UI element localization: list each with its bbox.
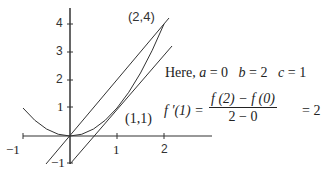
y-tick-label-4: 4	[56, 17, 63, 29]
x-tick-label-2: 2	[161, 143, 168, 155]
a-value: = 0	[206, 65, 228, 80]
b-variable: b	[239, 65, 246, 80]
quotient-numerator: f (2) − f (0)	[209, 92, 277, 108]
tangent-line	[70, 46, 172, 164]
secant-line	[46, 18, 169, 164]
x-tick-label-neg1: −1	[6, 143, 20, 156]
c-value: = 1	[284, 65, 306, 80]
point-label-2-4: (2,4)	[128, 10, 155, 23]
y-tick-label-1: 1	[57, 100, 64, 113]
b-value: = 2	[246, 65, 268, 80]
y-tick-label-neg1: −1	[51, 156, 65, 169]
tick-marks	[23, 24, 164, 163]
here-label: Here,	[165, 65, 196, 80]
x-tick-label-1: 1	[113, 143, 120, 156]
derivative-lhs: f ′(1) =	[164, 104, 204, 118]
parameters-text: Here, a = 0 b = 2 c = 1	[165, 66, 306, 80]
y-tick-label-3: 3	[56, 45, 63, 57]
difference-quotient: f (2) − f (0) 2 − 0	[209, 92, 277, 124]
quotient-denominator: 2 − 0	[209, 108, 277, 124]
derivative-result: = 2	[302, 104, 320, 118]
point-label-1-1: (1,1)	[125, 112, 152, 126]
y-tick-label-2: 2	[56, 73, 63, 85]
